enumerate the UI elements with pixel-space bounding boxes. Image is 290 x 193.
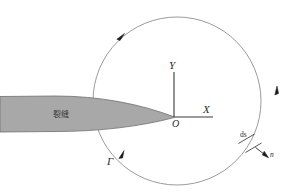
ds-label: ds: [240, 130, 247, 139]
crack-label: 裂缝: [53, 109, 69, 119]
x-axis-label: X: [202, 103, 211, 115]
origin-label: O: [172, 118, 179, 129]
crack-contour-figure: Γ 裂缝 Y X O ds n: [0, 0, 290, 193]
contour-label-gamma: Γ: [106, 155, 114, 167]
figure-container: Γ 裂缝 Y X O ds n: [0, 0, 290, 193]
normal-label: n: [270, 150, 274, 159]
